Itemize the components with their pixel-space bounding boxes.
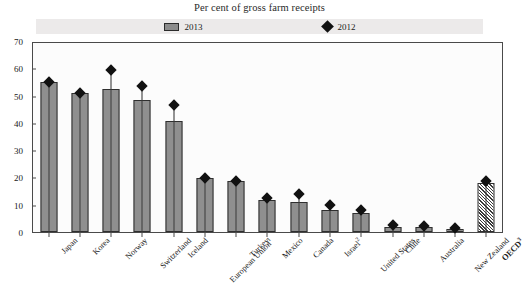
- x-axis-label: Canada: [311, 236, 335, 260]
- chart-title: Per cent of gross farm receipts: [0, 2, 519, 13]
- plot-series-layer: [33, 43, 502, 232]
- bar-group: [252, 43, 283, 232]
- y-axis-tick-label: 10: [0, 201, 28, 211]
- x-axis-label: Mexico: [280, 236, 304, 260]
- y-axis-tick-label: 50: [0, 92, 28, 102]
- bar-center-line: [142, 100, 143, 232]
- x-axis-label: Australia: [438, 236, 466, 264]
- bar-group: [346, 43, 377, 232]
- y-axis-tick-label: 0: [0, 228, 28, 238]
- legend-item-2012: 2012: [323, 22, 356, 32]
- bar-center-line: [79, 93, 80, 232]
- bar-center-line: [204, 178, 205, 232]
- y-axis-tick-label: 40: [0, 119, 28, 129]
- bar-center-line: [330, 210, 331, 232]
- footnote-marker: 2: [354, 236, 360, 242]
- bar-center-line: [111, 89, 112, 232]
- bar-group: [221, 43, 252, 232]
- bar-center-line: [236, 181, 237, 232]
- bar-center-line: [267, 200, 268, 232]
- bar-group: [127, 43, 158, 232]
- x-axis-labels: JapanKoreaNorwaySwitzerlandIcelandEurope…: [33, 236, 502, 298]
- bar-center-line: [486, 183, 487, 232]
- bar-group: [314, 43, 345, 232]
- bar-center-line: [361, 213, 362, 232]
- legend-label-2012: 2012: [338, 22, 356, 32]
- marker-2012[interactable]: [293, 189, 304, 200]
- bar-group: [408, 43, 439, 232]
- y-axis-labels: 010203040506070: [0, 42, 28, 233]
- x-axis-label: Israel2: [341, 236, 364, 259]
- bar-group: [283, 43, 314, 232]
- bar-group: [189, 43, 220, 232]
- bar-group: [439, 43, 470, 232]
- marker-2012[interactable]: [105, 64, 116, 75]
- marker-2012[interactable]: [137, 81, 148, 92]
- bar-center-line: [173, 121, 174, 232]
- chart-legend: 2013 2012: [0, 19, 519, 34]
- marker-2012[interactable]: [168, 99, 179, 110]
- footnote-marker: 3: [516, 236, 522, 242]
- bar-group: [471, 43, 502, 232]
- y-axis-tick-label: 70: [0, 37, 28, 47]
- y-axis-tick-label: 30: [0, 146, 28, 156]
- legend-bar-swatch-icon: [164, 23, 179, 31]
- x-axis-label: Korea: [91, 236, 112, 257]
- y-axis-tick-label: 60: [0, 64, 28, 74]
- marker-2012[interactable]: [324, 199, 335, 210]
- legend-label-2013: 2013: [185, 22, 203, 32]
- bar-group: [377, 43, 408, 232]
- bar-group: [33, 43, 64, 232]
- y-axis-tick-label: 20: [0, 173, 28, 183]
- bar-group: [64, 43, 95, 232]
- bar-center-line: [298, 202, 299, 232]
- bar-group: [96, 43, 127, 232]
- legend-diamond-marker-icon: [321, 20, 334, 33]
- bar-center-line: [48, 82, 49, 232]
- x-axis-label: Norway: [124, 236, 149, 261]
- legend-item-2013: 2013: [164, 22, 203, 32]
- x-axis-label: Japan: [59, 236, 79, 256]
- bar-group: [158, 43, 189, 232]
